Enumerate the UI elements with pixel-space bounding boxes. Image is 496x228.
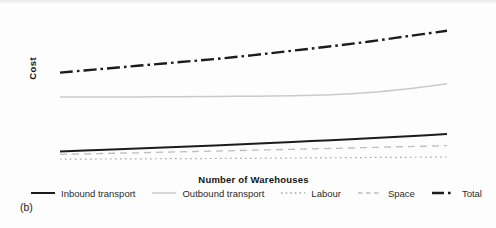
- labour-line-swatch-icon: [280, 189, 306, 197]
- legend-item-space: Space: [357, 188, 415, 199]
- outbound-line-swatch-icon: [151, 189, 177, 197]
- space-line-swatch-icon: [357, 189, 383, 197]
- legend-item-label: Outbound transport: [182, 188, 264, 199]
- legend-item-total: Total: [431, 188, 482, 199]
- total-line-swatch-icon: [431, 189, 457, 197]
- line-chart: [0, 0, 496, 178]
- inbound-line-swatch-icon: [30, 189, 56, 197]
- legend-item-label: Space: [388, 188, 415, 199]
- legend-item-label: Labour: [311, 188, 341, 199]
- x-axis-label: Number of Warehouses: [60, 174, 447, 185]
- legend-item-label: Inbound transport: [61, 188, 135, 199]
- legend-item-labour: Labour: [280, 188, 341, 199]
- series-line-inbound: [60, 134, 447, 151]
- legend-item-outbound: Outbound transport: [151, 188, 264, 199]
- series-line-total: [60, 31, 447, 73]
- series-line-labour: [60, 157, 447, 159]
- legend: Inbound transportOutbound transportLabou…: [30, 186, 482, 200]
- cost-vs-warehouses-figure: Cost Number of Warehouses Inbound transp…: [0, 0, 496, 228]
- legend-item-label: Total: [462, 188, 482, 199]
- panel-label: (b): [20, 201, 33, 213]
- legend-item-inbound: Inbound transport: [30, 188, 135, 199]
- series-line-outbound: [60, 84, 447, 97]
- y-axis-label: Cost: [27, 57, 38, 80]
